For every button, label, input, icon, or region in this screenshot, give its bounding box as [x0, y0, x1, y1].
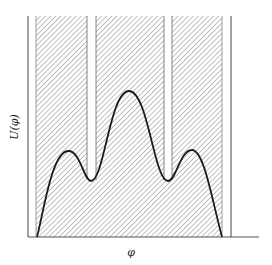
- potential-diagram: U(φ) φ: [0, 0, 272, 265]
- white-gap-left: [87, 16, 96, 181]
- y-axis-label: U(φ): [8, 114, 21, 140]
- x-axis-label: φ: [127, 246, 135, 259]
- hatched-region: [36, 16, 222, 237]
- white-gap-right: [164, 16, 172, 181]
